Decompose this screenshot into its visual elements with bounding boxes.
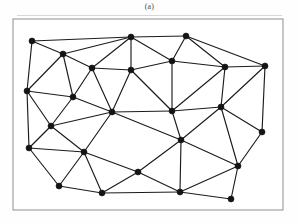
graph-node bbox=[128, 34, 134, 40]
graph-node bbox=[169, 108, 175, 114]
graph-node bbox=[169, 58, 175, 64]
graph-node bbox=[183, 33, 189, 39]
graph-node bbox=[218, 104, 224, 110]
graph-node bbox=[235, 163, 241, 169]
graph-node bbox=[70, 94, 76, 100]
graph-node bbox=[109, 109, 115, 115]
graph-node bbox=[222, 64, 228, 70]
graph-node bbox=[178, 137, 184, 143]
graph-node bbox=[177, 189, 183, 195]
graph-node bbox=[48, 123, 54, 129]
graph-node bbox=[60, 51, 66, 57]
graph-node bbox=[228, 196, 234, 202]
graph-node bbox=[81, 149, 87, 155]
figure-panel: (a) bbox=[0, 0, 299, 223]
graph-frame bbox=[13, 19, 283, 210]
graph-node bbox=[29, 38, 35, 44]
graph-node bbox=[128, 67, 134, 73]
graph-node bbox=[26, 145, 32, 151]
graph-node bbox=[89, 65, 95, 71]
graph-node bbox=[56, 183, 62, 189]
graph-node bbox=[262, 63, 268, 69]
graph-node bbox=[24, 88, 30, 94]
graph-node bbox=[259, 129, 265, 135]
graph-node bbox=[99, 190, 105, 196]
graph-canvas bbox=[0, 0, 299, 223]
graph-node bbox=[135, 169, 141, 175]
